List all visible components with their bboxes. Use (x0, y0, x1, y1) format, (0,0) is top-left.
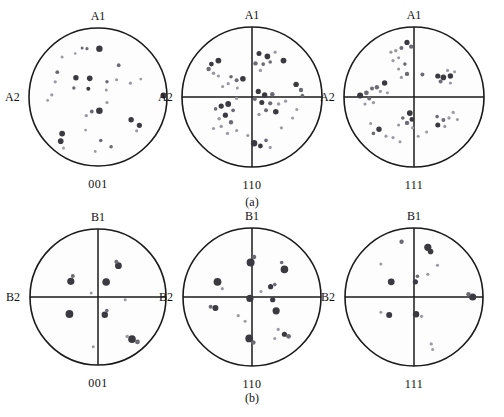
pole-spot (401, 116, 405, 120)
pole-spot (388, 278, 395, 285)
pole-spot (259, 100, 264, 105)
pole-figure-panel-a-111 (336, 19, 492, 175)
pole-spot (430, 342, 433, 345)
pole-spot (264, 108, 268, 112)
pole-spot (386, 312, 392, 318)
pole-spot (394, 49, 397, 52)
pole-spot (404, 40, 409, 45)
plane-index-label: 001 (88, 377, 108, 389)
pole-spot (235, 78, 239, 82)
pole-spot (105, 309, 109, 313)
pole-spot (253, 61, 257, 65)
pole-spot (231, 108, 235, 112)
pole-spot (85, 47, 88, 50)
plane-index-label: 111 (405, 378, 424, 390)
pole-spot (441, 75, 447, 81)
pole-spot (237, 314, 240, 317)
pole-spot (452, 111, 455, 114)
pole-spot (139, 78, 142, 81)
pole-spot (217, 117, 221, 121)
pole-spot (214, 278, 222, 286)
axis-label-left: A2 (158, 91, 173, 103)
pole-spot (273, 337, 276, 340)
pole-spot (280, 261, 284, 265)
pole-spot (286, 334, 291, 339)
pole-spot (251, 140, 257, 146)
pole-spot (449, 81, 452, 84)
pole-spot (225, 101, 231, 107)
pole-spot (277, 102, 281, 106)
pole-spot (281, 266, 289, 274)
axis-label-left: A2 (5, 91, 20, 103)
pole-spot (273, 307, 280, 314)
pole-spot (417, 135, 420, 138)
plane-index-label: 110 (242, 179, 261, 191)
pole-spot (258, 144, 263, 149)
pole-spot (431, 348, 434, 351)
pole-spot (129, 82, 132, 85)
pole-spot (372, 132, 376, 136)
pole-spot (379, 311, 382, 314)
pole-spot (105, 80, 108, 83)
pole-spot (435, 73, 440, 78)
pole-spot (357, 93, 363, 99)
pole-spot (96, 108, 103, 115)
pole-spot (252, 255, 256, 259)
pole-spot (436, 264, 439, 267)
pole-spot (399, 46, 403, 50)
pole-spot (405, 72, 409, 76)
pole-spot (102, 278, 110, 286)
pole-spot (94, 150, 97, 153)
pole-spot (236, 86, 239, 89)
pole-spot (456, 118, 459, 121)
pole-spot (391, 59, 394, 62)
pole-spot (293, 82, 298, 87)
pole-spot (105, 101, 108, 104)
pole-spot (209, 62, 214, 67)
pole-spot (281, 58, 287, 64)
pole-spot (124, 298, 127, 301)
pole-spot (135, 129, 138, 132)
pole-spot (223, 113, 228, 118)
pole-spot (268, 101, 272, 105)
pole-spot (67, 278, 74, 285)
pole-spot (384, 135, 387, 138)
pole-figure-panel-a-110 (174, 19, 330, 175)
pole-spot (397, 67, 400, 70)
pole-spot (466, 292, 470, 296)
pole-spot (114, 260, 118, 264)
pole-spot (96, 46, 102, 52)
pole-figure-panel-a-001 (21, 20, 175, 174)
pole-spot (441, 118, 445, 122)
pole-spot (257, 113, 260, 116)
pole-spot (262, 92, 267, 97)
pole-spot (61, 55, 64, 58)
pole-spot (439, 80, 443, 84)
pole-spot (411, 126, 414, 129)
pole-spot (372, 101, 375, 104)
pole-figure-panel-b-001 (22, 221, 174, 373)
pole-spot (447, 116, 450, 119)
pole-spot (84, 129, 87, 132)
pole-spot (221, 85, 224, 88)
pole-spot (257, 51, 262, 56)
pole-spot (221, 287, 224, 290)
pole-spot (85, 114, 88, 117)
plane-index-label: 110 (242, 378, 261, 390)
axis-label-left: B2 (159, 291, 173, 303)
axis-label-top: A1 (91, 10, 106, 22)
pole-spot (74, 52, 77, 55)
pole-spot (413, 279, 418, 284)
pole-spot (386, 91, 389, 94)
pole-spot (453, 70, 456, 73)
pole-spot (214, 107, 218, 111)
pole-spot (246, 295, 253, 302)
pole-spot (212, 305, 218, 311)
pole-spot (73, 75, 78, 80)
pole-spot (376, 127, 381, 132)
pole-spot (405, 121, 409, 125)
pole-spot (46, 99, 49, 102)
pole-spot (265, 54, 271, 60)
pole-spot (117, 63, 121, 67)
pole-spot (66, 310, 74, 318)
